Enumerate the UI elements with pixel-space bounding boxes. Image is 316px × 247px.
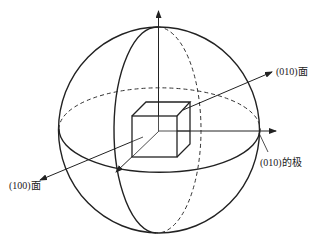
normal-010-arrow [183, 72, 272, 110]
normal-100-arrow [40, 137, 143, 180]
label-face-010: (010)面 [276, 66, 308, 78]
sphere-projection-diagram [0, 0, 316, 247]
pole-010-leader [259, 133, 268, 152]
label-face-100: (100)面 [9, 180, 41, 192]
label-pole-010: (010)的极 [260, 157, 302, 169]
